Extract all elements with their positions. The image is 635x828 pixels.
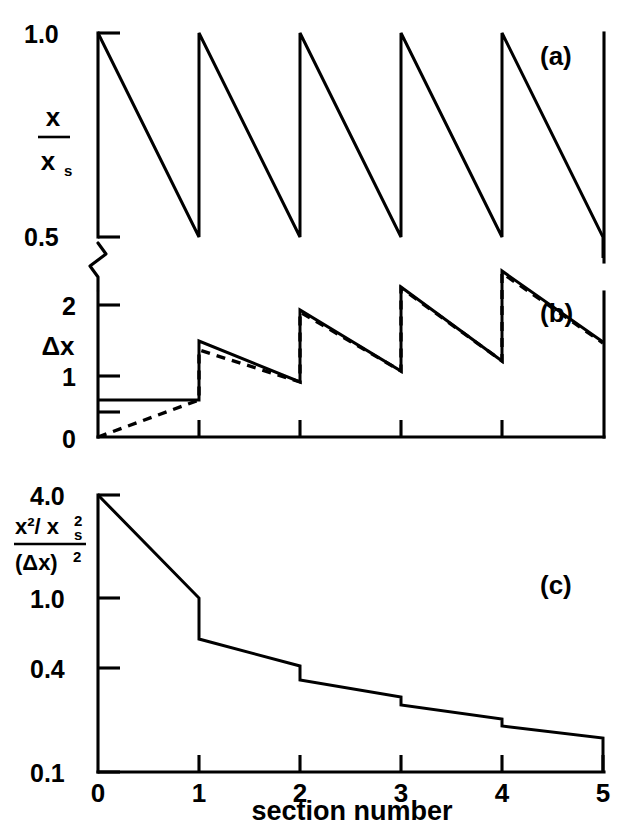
panel-c-ytick-label-4-0: 4.0 (30, 482, 65, 510)
panel-c-y-denominator-sup: 2 (73, 548, 81, 565)
panel-a-ytick-label-0-5: 0.5 (24, 223, 59, 251)
panel-c-curve-solid (98, 495, 603, 772)
panel-c-y-denominator: (Δx) (15, 550, 58, 575)
xtick-label-1: 1 (192, 778, 206, 808)
panel-a-y-numerator: x (46, 102, 61, 132)
panel-b-curve-solid (98, 271, 603, 400)
panel-a: 1.0 0.5 x x s (a) (24, 20, 604, 290)
x-axis-labels: 0 1 2 3 4 5 section number (91, 778, 610, 826)
panel-b-curve-dashed (98, 273, 603, 437)
xtick-label-0: 0 (91, 778, 105, 808)
xtick-label-5: 5 (596, 778, 610, 808)
panel-b-label: (b) (540, 298, 573, 328)
axis-break-icon (90, 243, 106, 290)
panel-b-y-axis-title: Δx (41, 331, 75, 361)
panel-a-y-axis-title: x x s (38, 102, 72, 179)
panel-c: 4.0 1.0 0.4 0.1 x²/ x s 2 (Δx) 2 (c) (14, 482, 604, 787)
panel-a-ytick-label-1-0: 1.0 (24, 20, 59, 48)
panel-a-y-denominator-sub: s (64, 162, 72, 179)
panel-c-ytick-label-0-1: 0.1 (30, 759, 65, 787)
panel-b-ytick-label-1: 1 (62, 363, 76, 391)
panel-b: 2 1 0 Δx (b) (41, 271, 604, 453)
panel-a-y-denominator: x (41, 146, 56, 176)
xtick-label-4: 4 (495, 778, 510, 808)
scientific-figure: 1.0 0.5 x x s (a) (0, 0, 635, 828)
x-axis-caption: section number (251, 796, 453, 826)
panel-c-ytick-label-1-0: 1.0 (30, 585, 65, 613)
panel-a-label: (a) (540, 41, 572, 71)
panel-c-y-axis-title: x²/ x s 2 (Δx) 2 (14, 512, 86, 575)
panel-a-curve-solid (98, 33, 603, 258)
panel-b-ytick-label-2: 2 (62, 292, 76, 320)
panel-c-ytick-label-0-4: 0.4 (30, 655, 65, 683)
panel-c-label: (c) (540, 570, 572, 600)
figure-container: 1.0 0.5 x x s (a) (0, 0, 635, 828)
panel-c-y-numerator-sup: 2 (74, 512, 82, 529)
panel-c-y-numerator: x²/ x (15, 514, 60, 539)
panel-b-ytick-label-0: 0 (62, 425, 76, 453)
